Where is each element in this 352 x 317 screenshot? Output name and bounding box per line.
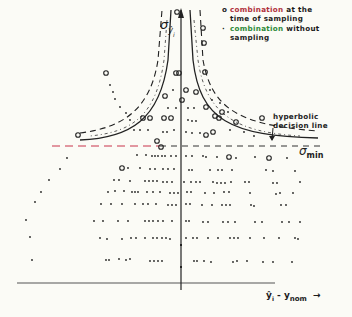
y-axis-label: σŷi [160, 17, 175, 32]
legend-item-sampling-line2: time of sampling [222, 14, 320, 23]
legend-item-nonsampling-line2: sampling [222, 33, 320, 42]
non-sampling-dots [25, 84, 301, 268]
dot-icon: · [222, 24, 230, 33]
decision-line-label: hyperbolic decision line [273, 113, 328, 130]
open-circle-icon: o [222, 5, 230, 14]
x-axis-label: ŷi - ynom → [266, 290, 321, 300]
legend: ocombination at the time of sampling ·co… [222, 5, 320, 42]
legend-item-nonsampling: ·combination without [222, 24, 320, 33]
dashed-curve-left [80, 10, 162, 133]
x-axis-arrow-icon: → [313, 290, 321, 300]
decision-curve-left [80, 10, 171, 140]
dashdot-curve-left [90, 20, 167, 136]
hyperbolic-decision-diagram [0, 0, 352, 317]
decision-arrow-icon [269, 136, 275, 141]
sigma-min-label: σmin [299, 144, 323, 158]
legend-item-sampling: ocombination at the [222, 5, 320, 14]
